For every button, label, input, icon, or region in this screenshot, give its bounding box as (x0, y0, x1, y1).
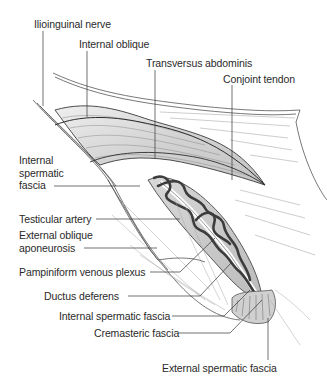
label-external-spermatic-fascia: External spermatic fascia (162, 362, 277, 375)
label-testicular-artery: Testicular artery (19, 213, 91, 226)
label-transversus-abdominis: Transversus abdominis (146, 57, 252, 70)
label-line-2: aponeurosis (19, 242, 93, 255)
label-internal-spermatic-fascia-lower: Internal spermatic fascia (59, 310, 170, 323)
label-line-1: Internal (19, 154, 64, 167)
label-line-2: spermatic (19, 167, 64, 180)
label-internal-spermatic-fascia-upper: Internal spermatic fascia (19, 154, 64, 192)
label-conjoint-tendon: Conjoint tendon (223, 73, 295, 86)
label-line-1: External oblique (19, 229, 93, 242)
label-pampiniform-venous-plexus: Pampiniform venous plexus (19, 266, 145, 279)
label-line-3: fascia (19, 179, 64, 192)
fascia-ring (232, 290, 275, 324)
label-ductus-deferens: Ductus deferens (44, 290, 119, 303)
label-ilioinguinal-nerve: Ilioinguinal nerve (34, 18, 111, 31)
label-cremasteric-fascia: Cremasteric fascia (94, 327, 179, 340)
label-internal-oblique: Internal oblique (79, 38, 149, 51)
label-external-oblique-aponeurosis: External oblique aponeurosis (19, 229, 93, 254)
